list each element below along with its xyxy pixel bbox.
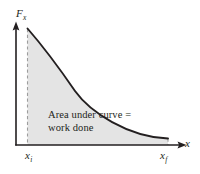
x-tick-label-final: xf — [160, 150, 167, 161]
force-vs-position-figure: Fx x xi xf Area under curve = work done — [0, 0, 200, 174]
area-annotation-line-1: Area under curve = — [48, 109, 158, 122]
figure-canvas — [0, 0, 200, 174]
x-tick-initial-subscript: i — [30, 155, 32, 164]
x-axis-label-text: x — [185, 137, 190, 149]
x-tick-final-subscript: f — [165, 155, 167, 164]
y-axis-label: Fx — [16, 8, 26, 19]
x-tick-label-initial: xi — [25, 150, 32, 161]
area-annotation: Area under curve = work done — [48, 109, 158, 134]
area-annotation-line-2: work done — [48, 122, 158, 135]
y-axis-label-text: F — [16, 7, 23, 19]
x-axis-label: x — [185, 138, 190, 149]
y-axis-label-subscript: x — [23, 13, 26, 22]
